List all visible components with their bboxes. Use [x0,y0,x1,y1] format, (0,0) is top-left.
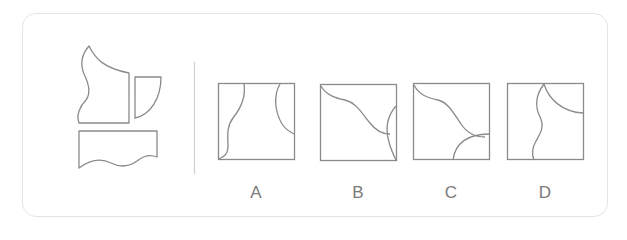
given-piece-wavy-rectangle [79,131,157,168]
option-d-label[interactable]: D [507,183,583,203]
option-b-figure[interactable] [321,85,397,161]
option-d-figure[interactable] [508,84,584,161]
option-a-figure[interactable] [219,84,295,160]
given-piece-wavy-left [78,46,129,123]
option-b-label[interactable]: B [320,183,396,203]
given-piece-quarter-circle [135,77,161,118]
option-a-label[interactable]: A [218,183,294,203]
option-c-figure[interactable] [414,84,490,161]
option-c-label[interactable]: C [413,183,489,203]
